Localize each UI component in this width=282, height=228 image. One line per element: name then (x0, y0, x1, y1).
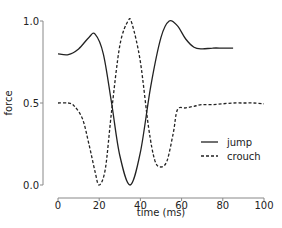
x-tick-label: 100 (254, 200, 273, 211)
x-axis-label: time (ms) (137, 207, 186, 218)
y-tick-label: 0.5 (23, 98, 39, 109)
line-chart: 0.00.51.0 020406080100 time (ms) force j… (0, 0, 282, 228)
legend: jump crouch (201, 137, 261, 162)
y-ticks: 0.00.51.0 (23, 16, 43, 191)
x-tick-label: 0 (55, 200, 61, 211)
x-tick-label: 20 (93, 200, 106, 211)
legend-label-jump: jump (226, 137, 252, 148)
x-tick-label: 80 (216, 200, 229, 211)
legend-label-crouch: crouch (227, 151, 261, 162)
y-tick-label: 0.0 (23, 180, 39, 191)
y-axis-label: force (3, 90, 14, 115)
y-tick-label: 1.0 (23, 16, 39, 27)
